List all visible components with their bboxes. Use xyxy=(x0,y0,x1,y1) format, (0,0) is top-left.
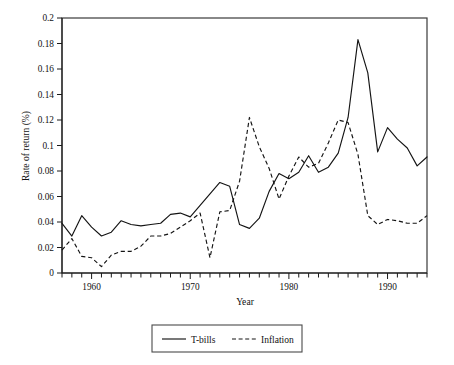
x-tick-label: 1960 xyxy=(82,282,101,292)
y-axis: 00.020.040.060.080.10.120.140.160.180.2 xyxy=(38,13,62,278)
chart-legend: T-bills Inflation xyxy=(152,325,302,352)
x-tick-label: 1980 xyxy=(280,282,299,292)
y-tick-label: 0.2 xyxy=(42,13,54,23)
y-tick-label: 0.14 xyxy=(38,90,55,100)
chart-figure: 00.020.040.060.080.10.120.140.160.180.2 … xyxy=(0,0,454,365)
plot-frame xyxy=(62,18,427,273)
y-axis-label: Rate of return (%) xyxy=(20,111,32,181)
x-tick-label: 1990 xyxy=(378,282,397,292)
y-tick-label: 0 xyxy=(49,268,54,278)
y-tick-label: 0.04 xyxy=(38,217,55,227)
legend-label-inflation: Inflation xyxy=(261,335,294,345)
x-axis-label: Year xyxy=(236,296,254,307)
legend-label-t-bills: T-bills xyxy=(191,335,216,345)
x-axis: 1960197019801990 xyxy=(62,273,427,292)
y-tick-label: 0.02 xyxy=(38,243,55,253)
y-tick-label: 0.18 xyxy=(38,39,55,49)
chart-svg: 00.020.040.060.080.10.120.140.160.180.2 … xyxy=(0,0,454,365)
y-tick-label: 0.06 xyxy=(38,192,55,202)
y-tick-label: 0.08 xyxy=(38,166,55,176)
plot-area-border xyxy=(62,18,427,273)
y-tick-label: 0.16 xyxy=(38,64,55,74)
x-tick-label: 1970 xyxy=(181,282,200,292)
y-tick-label: 0.1 xyxy=(42,141,54,151)
y-tick-label: 0.12 xyxy=(38,115,55,125)
